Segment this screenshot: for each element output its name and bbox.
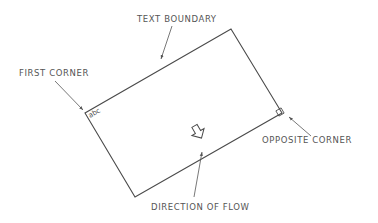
- svg-text:abc: abc: [87, 106, 102, 119]
- opposite-corner-leader: [289, 117, 311, 136]
- text-boundary-label: TEXT BOUNDARY: [136, 14, 217, 24]
- text-boundary-diagram: abc TEXT BOUNDARY FIRST CORNER OPPOSITE …: [0, 0, 378, 223]
- sample-text: abc: [87, 106, 102, 119]
- text-boundary-leader: [161, 26, 172, 59]
- direction-of-flow-label: DIRECTION OF FLOW: [151, 202, 250, 212]
- first-corner-leader: [55, 81, 83, 110]
- flow-arrow-icon: [188, 122, 207, 141]
- first-corner-label: FIRST CORNER: [19, 68, 89, 78]
- text-boundary-rectangle: [85, 29, 282, 197]
- opposite-corner-label: OPPOSITE CORNER: [262, 135, 352, 145]
- direction-of-flow-leader: [194, 152, 202, 197]
